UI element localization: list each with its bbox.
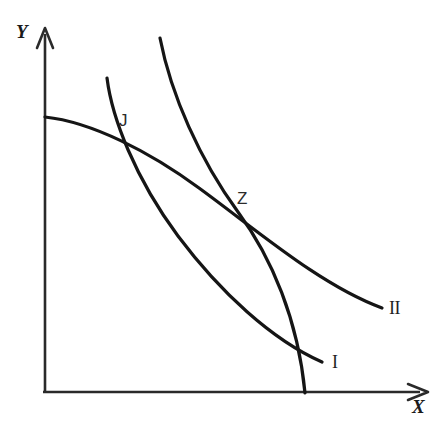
point-label-z: Z [237, 190, 247, 207]
curve-label-ii: II [389, 299, 400, 317]
diagram-svg [0, 0, 445, 439]
curve-label-i: I [332, 353, 338, 371]
diagram-canvas: Y X J Z I II [0, 0, 445, 439]
y-axis-label: Y [16, 22, 28, 41]
point-label-j: J [119, 112, 128, 129]
x-axis-label: X [412, 397, 425, 416]
